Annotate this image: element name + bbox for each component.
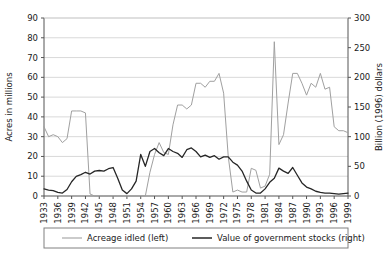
y-tick-label-left: 80: [27, 33, 38, 43]
y-tick-label-right: 0: [354, 191, 359, 201]
y-tick-label-right: 100: [354, 132, 370, 142]
y-tick-label-right: 200: [354, 72, 370, 82]
x-tick-label: 1981: [260, 202, 270, 224]
x-tick-label: 1939: [67, 202, 77, 224]
legend-label-0: Acreage idled (left): [87, 233, 168, 243]
y-tick-label-left: 70: [27, 53, 38, 63]
x-tick-label: 1963: [177, 202, 187, 224]
x-tick-label: 1942: [80, 202, 90, 224]
x-tick-label: 1966: [191, 202, 201, 224]
x-tick-label: 1969: [205, 202, 215, 224]
y-axis-title-left: Acres in millions: [4, 72, 14, 142]
x-tick-label: 1954: [136, 202, 146, 224]
x-tick-label: 1987: [288, 202, 298, 224]
x-tick-label: 1936: [53, 202, 63, 224]
y-tick-label-left: 50: [27, 92, 38, 102]
x-tick-label: 1978: [246, 202, 256, 224]
y-tick-label-right: 250: [354, 43, 370, 53]
y-tick-label-left: 90: [27, 13, 38, 23]
legend-label-1: Value of government stocks (right): [217, 233, 365, 243]
x-tick-label: 1984: [274, 202, 284, 224]
series-line-0: [44, 42, 348, 196]
x-tick-label: 1951: [122, 202, 132, 224]
y-axis-title-right: Billion (1996) dollars: [374, 62, 384, 151]
x-tick-label: 1996: [329, 202, 339, 224]
chart-canvas: 0102030405060708090050100150200250300193…: [0, 0, 392, 260]
y-tick-label-right: 50: [354, 161, 365, 171]
y-tick-label-left: 10: [27, 171, 38, 181]
x-tick-label: 1933: [39, 202, 49, 224]
x-tick-label: 1993: [315, 202, 325, 224]
x-tick-label: 1960: [163, 202, 173, 224]
x-tick-label: 1957: [150, 202, 160, 224]
x-tick-label: 1999: [343, 202, 353, 224]
x-tick-label: 1948: [108, 202, 118, 224]
x-tick-label: 1945: [94, 202, 104, 224]
y-tick-label-left: 0: [33, 191, 38, 201]
y-tick-label-right: 150: [354, 102, 370, 112]
y-tick-label-left: 60: [27, 72, 38, 82]
y-tick-label-left: 30: [27, 132, 38, 142]
chart-figure: 0102030405060708090050100150200250300193…: [0, 0, 392, 260]
x-tick-label: 1975: [232, 202, 242, 224]
x-tick-label: 1972: [219, 202, 229, 224]
y-tick-label-left: 20: [27, 151, 38, 161]
x-tick-label: 1990: [302, 202, 312, 224]
y-tick-label-left: 40: [27, 112, 38, 122]
y-tick-label-right: 300: [354, 13, 370, 23]
